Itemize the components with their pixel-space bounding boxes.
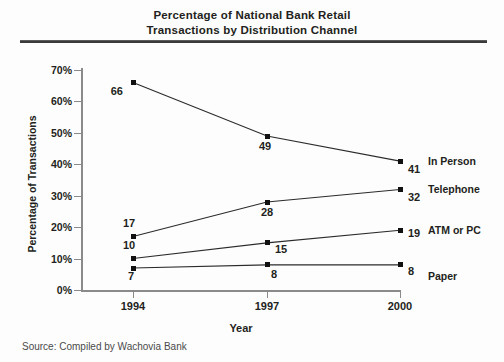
chart-title-line-2: Transactions by Distribution Channel [0,23,504,38]
y-tick-label: 70% [26,65,72,75]
series-label-paper: Paper [428,270,457,282]
y-tick-mark [74,259,82,260]
chart-figure: Percentage of National Bank Retail Trans… [0,0,504,362]
source-note: Source: Compiled by Wachovia Bank [22,341,187,352]
data-point-marker [398,228,403,233]
data-point-label: 49 [253,140,277,152]
data-point-label: 41 [408,163,420,175]
data-point-marker [131,80,136,85]
data-point-label: 28 [255,206,279,218]
data-point-marker [265,240,270,245]
y-axis-title: Percentage of Transactions [26,104,38,264]
series-label-in-person: In Person [428,155,476,167]
y-tick-label-wrap: 0% [22,285,72,295]
y-tick-mark [74,70,82,71]
x-tick-label: 1994 [103,300,163,312]
data-point-marker [398,187,403,192]
data-point-label: 10 [117,239,141,251]
y-tick-label-wrap: 70% [22,65,72,75]
data-point-label: 17 [117,217,141,229]
x-tick-mark [400,291,401,298]
series-label-atm-or-pc: ATM or PC [428,224,481,236]
y-tick-mark [74,133,82,134]
x-tick-label: 1997 [237,300,297,312]
data-point-label: 7 [119,270,143,282]
x-tick-mark [133,291,134,298]
title-divider-rule [20,40,487,43]
data-point-marker [265,262,270,267]
data-point-marker [265,200,270,205]
data-point-label: 19 [408,227,420,239]
data-point-marker [131,256,136,261]
y-tick-mark [74,227,82,228]
data-point-label: 8 [271,268,277,280]
data-point-marker [398,262,403,267]
x-axis-title: Year [81,322,401,334]
data-point-marker [398,159,403,164]
y-tick-mark [74,164,82,165]
x-tick-mark [267,291,268,298]
data-point-label: 8 [408,265,414,277]
x-tick-label: 2000 [370,300,430,312]
y-tick-mark [74,290,82,291]
y-tick-mark [74,196,82,197]
y-tick-mark [74,101,82,102]
data-point-label: 15 [275,243,287,255]
chart-title-line-1: Percentage of National Bank Retail [0,8,504,23]
data-point-label: 66 [103,85,123,97]
data-point-label: 32 [408,191,420,203]
x-axis-line [81,290,401,292]
data-point-marker [265,134,270,139]
series-label-telephone: Telephone [428,183,480,195]
chart-title: Percentage of National Bank Retail Trans… [0,8,504,38]
y-tick-label: 0% [26,285,72,295]
